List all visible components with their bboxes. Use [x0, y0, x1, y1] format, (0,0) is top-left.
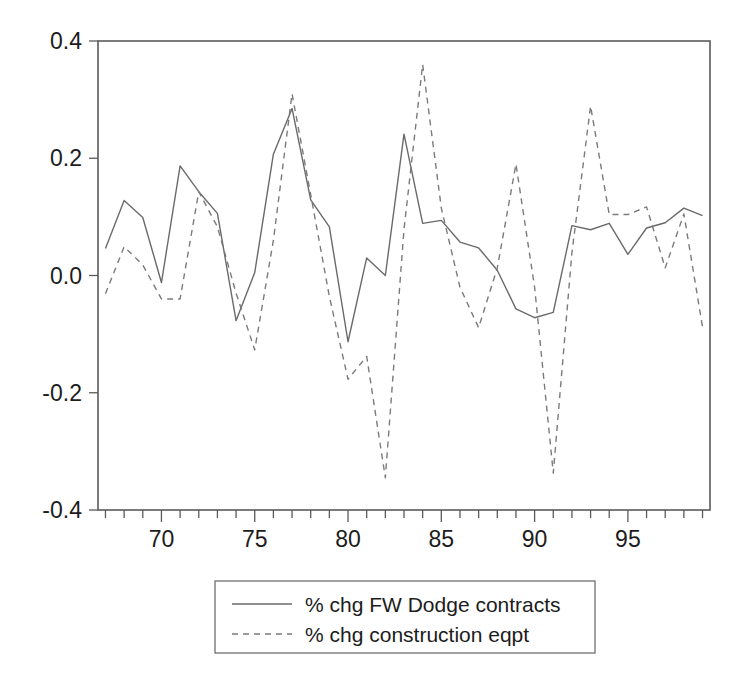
chart-legend: % chg FW Dodge contracts % chg construct…	[215, 581, 595, 653]
x-tick-label: 75	[242, 526, 268, 552]
series-line-2	[105, 64, 702, 477]
x-axis-ticks: 707580859095	[105, 510, 702, 552]
y-axis-ticks: 0.40.20.0-0.2-0.4	[42, 28, 98, 523]
legend-label-fw-dodge-contracts: % chg FW Dodge contracts	[305, 593, 561, 616]
y-tick-label: -0.2	[42, 380, 82, 406]
x-tick-label: 90	[522, 526, 548, 552]
y-tick-label: 0.2	[50, 145, 82, 171]
legend-label-construction-eqpt: % chg construction eqpt	[305, 623, 529, 646]
y-tick-label: 0.4	[50, 28, 82, 54]
y-tick-label: 0.0	[50, 263, 82, 289]
chart-figure: 0.40.20.0-0.2-0.4 707580859095 % chg FW …	[0, 0, 740, 674]
series-layer	[105, 64, 702, 477]
y-tick-label: -0.4	[42, 497, 82, 523]
plot-frame	[98, 41, 710, 510]
x-tick-label: 80	[335, 526, 361, 552]
line-chart: 0.40.20.0-0.2-0.4 707580859095 % chg FW …	[0, 0, 740, 674]
x-tick-label: 95	[615, 526, 641, 552]
x-tick-label: 70	[149, 526, 175, 552]
x-tick-label: 85	[429, 526, 455, 552]
